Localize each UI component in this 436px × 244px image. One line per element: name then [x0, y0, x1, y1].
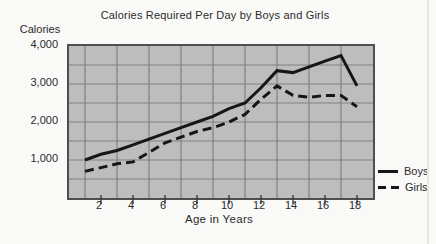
x-tick-label: 12 — [247, 199, 271, 211]
chart-legend: Boys Girls — [378, 163, 434, 195]
calorie-chart-figure: Calories Required Per Day by Boys and Gi… — [0, 0, 436, 244]
chart-title: Calories Required Per Day by Boys and Gi… — [45, 9, 385, 21]
x-tick-label: 8 — [183, 199, 207, 211]
x-tick-label: 4 — [119, 199, 143, 211]
chart-canvas — [69, 46, 373, 206]
legend-label-boys: Boys — [404, 165, 428, 177]
solid-line-icon — [378, 170, 398, 173]
legend-item-boys: Boys — [378, 163, 434, 179]
x-tick-label: 2 — [87, 199, 111, 211]
legend-label-girls: Girls — [405, 181, 428, 193]
x-tick-label: 6 — [151, 199, 175, 211]
y-tick-label: 2,000 — [0, 112, 58, 128]
y-tick-label: 3,000 — [0, 74, 58, 90]
dashed-line-icon — [378, 186, 399, 189]
x-tick-label: 16 — [311, 199, 335, 211]
y-tick-label: 4,000 — [0, 36, 58, 52]
x-tick-label: 14 — [279, 199, 303, 211]
y-axis-label: Calories — [16, 23, 64, 35]
x-axis-label: Age in Years — [119, 213, 319, 225]
page-edge-shadow — [427, 0, 429, 244]
y-tick-label: 1,000 — [0, 150, 58, 166]
x-tick-label: 10 — [215, 199, 239, 211]
x-tick-label: 18 — [343, 199, 367, 211]
plot-area — [67, 44, 375, 200]
legend-item-girls: Girls — [378, 179, 434, 195]
